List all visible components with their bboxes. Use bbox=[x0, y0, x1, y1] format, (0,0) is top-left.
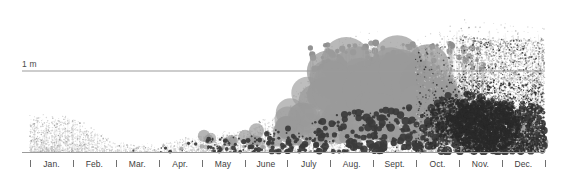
month-label-feb: Feb. bbox=[73, 158, 116, 170]
month-label-mar: Mar. bbox=[116, 158, 159, 170]
growth-phenology-chart: 1 m Jan.Feb.Mar.Apr.MayJuneJulyAug.Sept.… bbox=[0, 0, 565, 176]
scatter-canvas bbox=[0, 0, 565, 155]
month-label-oct: Oct. bbox=[416, 158, 459, 170]
x-axis: Jan.Feb.Mar.Apr.MayJuneJulyAug.Sept.Oct.… bbox=[0, 152, 565, 176]
month-label-sept: Sept. bbox=[373, 158, 416, 170]
month-label-jan: Jan. bbox=[30, 158, 73, 170]
reference-line-label: 1 m bbox=[22, 60, 37, 69]
month-label-dec: Dec. bbox=[502, 158, 545, 170]
month-label-nov: Nov. bbox=[459, 158, 502, 170]
axis-baseline bbox=[22, 152, 545, 153]
month-label-aug: Aug. bbox=[330, 158, 373, 170]
axis-tick bbox=[545, 160, 546, 167]
month-label-may: May bbox=[202, 158, 245, 170]
plot-area bbox=[0, 0, 565, 155]
month-label-july: July bbox=[287, 158, 330, 170]
month-label-apr: Apr. bbox=[159, 158, 202, 170]
month-label-june: June bbox=[245, 158, 288, 170]
